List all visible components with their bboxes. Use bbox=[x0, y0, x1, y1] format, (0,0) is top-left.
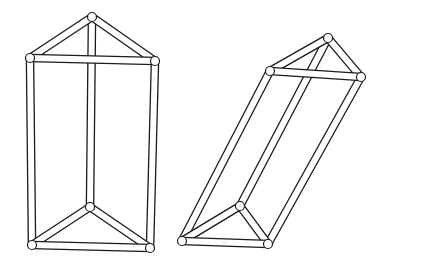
bottom-joint-left bbox=[28, 241, 37, 250]
bottom-joint-right bbox=[146, 244, 155, 253]
figure-canvas bbox=[0, 0, 425, 264]
top-rod-right bbox=[92, 17, 155, 61]
top-joint-apex bbox=[324, 34, 333, 43]
bottom-rod-front bbox=[32, 245, 150, 248]
upright-prism bbox=[26, 13, 160, 253]
tilted-prism bbox=[178, 34, 366, 249]
top-rod-left bbox=[30, 17, 92, 58]
bottom-rod-right bbox=[240, 206, 268, 244]
bottom-rod-front bbox=[182, 241, 268, 244]
lateral-rod-right bbox=[268, 77, 361, 244]
top-joint-apex bbox=[88, 13, 97, 22]
bottom-joint-apex bbox=[236, 202, 245, 211]
bottom-rod-right bbox=[90, 207, 150, 248]
lateral-rod-left bbox=[30, 58, 32, 245]
top-joint-right bbox=[357, 73, 366, 82]
prism-drawing bbox=[0, 0, 425, 264]
lateral-rod-back bbox=[90, 17, 92, 207]
top-rod-front bbox=[30, 58, 155, 61]
bottom-joint-apex bbox=[86, 203, 95, 212]
top-joint-right bbox=[151, 57, 160, 66]
top-joint-left bbox=[266, 67, 275, 76]
top-joint-left bbox=[26, 54, 35, 63]
bottom-joint-left bbox=[178, 237, 187, 246]
bottom-rod-left bbox=[32, 207, 90, 245]
bottom-joint-right bbox=[264, 240, 273, 249]
